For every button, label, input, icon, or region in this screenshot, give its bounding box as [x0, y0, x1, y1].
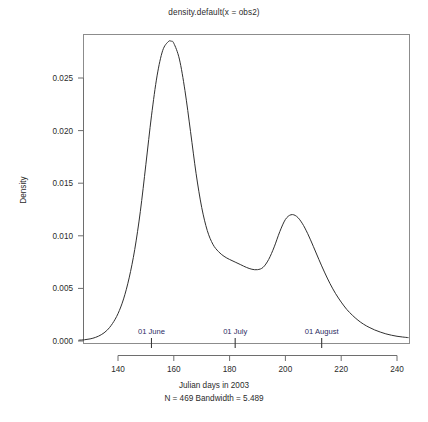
y-tick-label: 0.025 — [53, 74, 74, 83]
plot-panel-border — [84, 35, 410, 344]
x-tick-label: 220 — [334, 365, 348, 374]
annotation-label: 01 June — [138, 327, 165, 336]
y-tick-label: 0.005 — [53, 284, 74, 293]
x-axis-sublabel: N = 469 Bandwidth = 5.489 — [164, 394, 264, 403]
density-curve — [79, 41, 408, 340]
y-tick-label: 0.020 — [53, 127, 74, 136]
x-tick-label: 160 — [167, 365, 181, 374]
y-tick-label: 0.010 — [53, 232, 74, 241]
y-tick-label: 0.015 — [53, 179, 74, 188]
annotation-label: 01 August — [305, 327, 340, 336]
annotation-label: 01 July — [223, 327, 247, 336]
y-axis-label: Density — [19, 175, 28, 203]
y-tick-label: 0.000 — [53, 337, 74, 346]
y-axis-ticks: 0.0000.0050.0100.0150.0200.025 — [53, 74, 84, 346]
x-axis-ticks: 140160180200220240 — [111, 356, 404, 375]
x-tick-label: 200 — [279, 365, 293, 374]
date-annotations: 01 June01 July01 August — [138, 327, 339, 348]
x-axis-label: Julian days in 2003 — [179, 381, 250, 390]
x-tick-label: 240 — [390, 365, 404, 374]
density-plot-figure: density.default(x = obs2) 0.0000.0050.01… — [0, 0, 428, 422]
plot-canvas: 0.0000.0050.0100.0150.0200.025 140160180… — [0, 0, 428, 422]
x-tick-label: 180 — [223, 365, 237, 374]
x-tick-label: 140 — [111, 365, 125, 374]
